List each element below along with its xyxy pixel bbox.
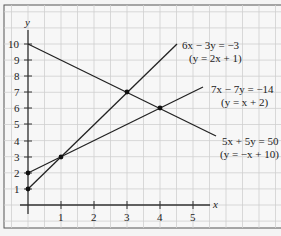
y-tick-label: 9 — [14, 54, 20, 66]
y-tick-label: 10 — [8, 38, 20, 50]
x-tick-label: 4 — [157, 211, 163, 223]
y-axis-label: y — [24, 16, 30, 28]
y-tick-label: 6 — [14, 102, 20, 114]
x-tick-label: 3 — [124, 211, 130, 223]
x-tick-label: 2 — [91, 211, 97, 223]
x-axis-label: x — [212, 198, 218, 210]
equation-label-2: 7x − 7y = −14 — [211, 83, 274, 95]
equation-label-1: 6x − 3y = −3 — [182, 39, 240, 51]
y-tick-label: 7 — [14, 86, 20, 98]
y-tick-label: 8 — [14, 70, 20, 82]
equation-sub-label-3: (y = −x + 10) — [220, 148, 279, 161]
y-tick-label: 1 — [14, 183, 20, 195]
y-tick-label: 4 — [14, 135, 20, 147]
y-tick-label: 3 — [14, 151, 20, 163]
y-tick-label: 2 — [14, 167, 20, 179]
equation-sub-label-2: (y = x + 2) — [221, 96, 269, 109]
y-tick-label: 5 — [14, 118, 20, 130]
chart-canvas: y x 1 2 3 4 5 1 2 3 4 5 6 7 8 9 10 6x − … — [0, 0, 281, 236]
equation-sub-label-1: (y = 2x + 1) — [189, 52, 242, 65]
x-tick-label: 5 — [190, 211, 196, 223]
equation-label-3: 5x + 5y = 50 — [222, 135, 279, 147]
x-tick-label: 1 — [58, 211, 64, 223]
